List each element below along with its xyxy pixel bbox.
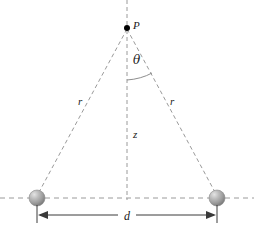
theta-arc bbox=[127, 73, 152, 80]
sphere-right bbox=[209, 190, 225, 206]
right-radius-label: r bbox=[170, 95, 175, 107]
point-p-marker-icon bbox=[124, 25, 130, 31]
right-arrowhead-icon bbox=[206, 211, 216, 219]
theta-label: θ bbox=[133, 53, 141, 67]
diagram-canvas: θ z r r P d bbox=[0, 0, 254, 230]
sphere-left bbox=[29, 190, 45, 206]
right-radius-leg bbox=[127, 29, 216, 194]
point-p-label: P bbox=[132, 19, 140, 31]
left-radius-leg bbox=[38, 29, 127, 194]
physics-diagram-figure: θ z r r P d bbox=[0, 0, 254, 230]
left-radius-label: r bbox=[78, 95, 83, 107]
z-label: z bbox=[132, 128, 138, 140]
separation-d-label: d bbox=[124, 209, 131, 223]
left-arrowhead-icon bbox=[38, 211, 48, 219]
